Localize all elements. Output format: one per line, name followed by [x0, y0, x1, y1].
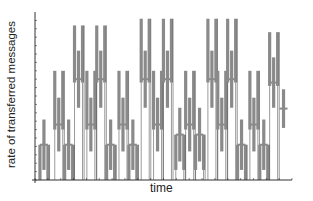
- outer-bar-right: [266, 145, 269, 180]
- outer-bar-right: [61, 71, 64, 130]
- outer-bar-left: [140, 19, 143, 83]
- glyph: [73, 25, 84, 180]
- outer-bar-right: [135, 145, 138, 180]
- glyph: [162, 19, 173, 180]
- outer-bar-right: [256, 71, 259, 130]
- outer-bar-right: [202, 135, 205, 170]
- outer-bar-left: [206, 19, 209, 83]
- glyph: [268, 32, 279, 180]
- glyph: [280, 89, 288, 128]
- outer-bar-left: [95, 25, 98, 82]
- outer-bar-left: [194, 135, 197, 170]
- outer-bar-left: [216, 71, 219, 130]
- outer-bar-left: [117, 71, 120, 130]
- glyph: [258, 120, 269, 180]
- glyph: [194, 108, 205, 180]
- outer-bar-right: [113, 145, 116, 180]
- glyph: [216, 71, 227, 180]
- outer-bar-left: [174, 135, 177, 170]
- y-axis-label: rate of transferred messages: [5, 28, 17, 168]
- glyph: [184, 71, 195, 180]
- outer-bar-left: [258, 145, 261, 180]
- outer-bar-left: [184, 71, 187, 130]
- outer-bar-left: [268, 32, 271, 86]
- glyph: [174, 108, 185, 180]
- glyph: [226, 19, 237, 180]
- glyph: [127, 120, 138, 180]
- glyph: [85, 71, 96, 180]
- glyph: [248, 71, 259, 180]
- glyph: [140, 19, 151, 180]
- glyph: [53, 71, 64, 180]
- glyph: [236, 120, 247, 180]
- outer-bar-left: [105, 145, 108, 180]
- outer-bar-right: [46, 145, 49, 180]
- glyph: [117, 71, 128, 180]
- outer-bar-left: [73, 25, 76, 82]
- outer-bar-left: [127, 145, 130, 180]
- outer-bar-right: [234, 19, 237, 83]
- glyph: [95, 25, 106, 180]
- glyph: [105, 120, 116, 180]
- chart-marks: [38, 19, 287, 180]
- glyph: [38, 120, 49, 180]
- outer-bar-left: [236, 145, 239, 180]
- outer-bar-right: [81, 25, 84, 82]
- outer-bar-right: [276, 32, 279, 86]
- outer-bar-left: [85, 71, 88, 130]
- outer-bar-left: [38, 145, 41, 180]
- outer-bar-right: [192, 71, 195, 130]
- outer-bar-left: [152, 71, 155, 130]
- glyph: [206, 19, 217, 180]
- outer-bar-left: [226, 19, 229, 83]
- outer-bar-right: [182, 135, 185, 170]
- x-axis-label: time: [150, 181, 173, 195]
- outer-bar-right: [71, 145, 74, 180]
- chart: [0, 0, 313, 201]
- outer-bar-right: [125, 71, 128, 130]
- glyph: [63, 120, 74, 180]
- outer-bar-right: [244, 145, 247, 180]
- outer-bar-left: [162, 19, 165, 83]
- outer-bar-left: [63, 145, 66, 180]
- outer-bar-right: [103, 25, 106, 82]
- outer-bar-left: [248, 71, 251, 130]
- outer-bar-right: [148, 19, 151, 83]
- outer-bar-left: [53, 71, 56, 130]
- glyph: [152, 71, 163, 180]
- outer-bar-right: [170, 19, 173, 83]
